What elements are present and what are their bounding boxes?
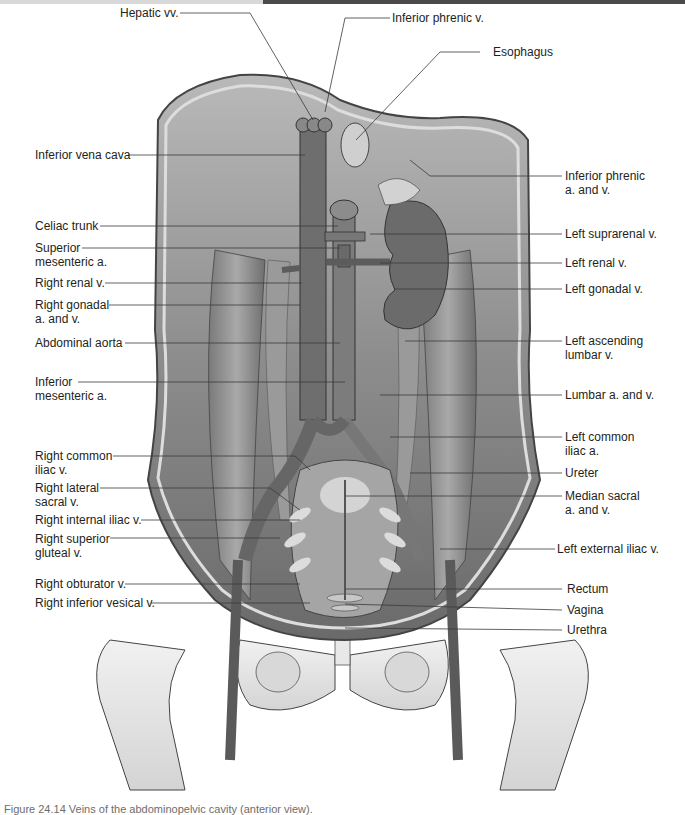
pelvis-bones-illustration	[237, 630, 449, 710]
label-left-ascending-lumbar-v: Left ascendinglumbar v.	[565, 334, 643, 362]
label-inferior-mesenteric-a: Inferiormesenteric a.	[35, 375, 107, 403]
label-right-internal-iliac-v: Right internal iliac v.	[35, 513, 142, 527]
label-abdominal-aorta: Abdominal aorta	[35, 336, 122, 350]
label-right-superior-gluteal-v: Right superiorgluteal v.	[35, 532, 110, 560]
label-vagina: Vagina	[567, 603, 603, 617]
label-right-lateral-sacral-v: Right lateralsacral v.	[35, 481, 99, 509]
label-left-common-iliac-a: Left commoniliac a.	[565, 430, 634, 458]
label-celiac-trunk: Celiac trunk	[35, 219, 98, 233]
label-right-inferior-vesical-v: Right inferior vesical v.	[35, 596, 155, 610]
figure-caption: Figure 24.14 Veins of the abdominopelvic…	[4, 803, 313, 815]
label-left-suprarenal-v: Left suprarenal v.	[565, 227, 657, 241]
label-right-renal-v: Right renal v.	[35, 276, 105, 290]
label-right-obturator-v: Right obturator v.	[35, 577, 126, 591]
label-hepatic-vv: Hepatic vv.	[120, 6, 178, 20]
label-superior-mesenteric-a: Superiormesenteric a.	[35, 241, 107, 269]
label-rectum: Rectum	[567, 582, 608, 596]
label-urethra: Urethra	[567, 623, 607, 637]
label-left-gonadal-v: Left gonadal v.	[565, 282, 643, 296]
label-right-common-iliac-v: Right commoniliac v.	[35, 449, 112, 477]
label-inferior-phrenic-a-and-v: Inferior phrenica. and v.	[565, 169, 645, 197]
label-inferior-vena-cava: Inferior vena cava	[35, 148, 130, 162]
label-left-renal-v: Left renal v.	[565, 256, 627, 270]
label-right-gonadal-a-and-v: Right gonadala. and v.	[35, 298, 109, 326]
label-inferior-phrenic-v: Inferior phrenic v.	[392, 11, 484, 25]
label-esophagus: Esophagus	[493, 45, 553, 59]
label-lumbar-a-and-v: Lumbar a. and v.	[565, 388, 654, 402]
label-median-sacral-a-and-v: Median sacrala. and v.	[565, 489, 640, 517]
label-ureter: Ureter	[565, 466, 598, 480]
label-left-external-iliac-v: Left external iliac v.	[557, 542, 659, 556]
